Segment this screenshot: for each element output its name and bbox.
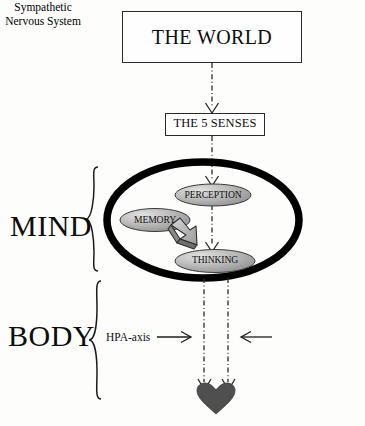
memory-label: MEMORY [120, 214, 190, 225]
the-5-senses-label: THE 5 SENSES [165, 117, 265, 130]
edge-mind-to-heart-right [222, 278, 235, 390]
diagram-canvas: THE WORLD THE 5 SENSES PERCEPTION MEMORY… [0, 0, 365, 426]
body-region-label: BODY [8, 320, 95, 352]
edge-perception-to-thinking [206, 205, 219, 252]
mind-region-label: MIND [10, 210, 92, 242]
perception-label: PERCEPTION [175, 189, 251, 200]
thinking-label: THINKING [176, 254, 254, 265]
sympathetic-arrow-icon [241, 332, 272, 343]
the-world-label: THE WORLD [122, 27, 302, 48]
heart-icon [197, 383, 235, 414]
hpa-axis-arrow-icon [157, 332, 191, 343]
edge-world-to-senses [206, 63, 219, 113]
edge-mind-to-heart-left [198, 278, 211, 390]
hpa-axis-label: HPA-axis [106, 331, 150, 343]
